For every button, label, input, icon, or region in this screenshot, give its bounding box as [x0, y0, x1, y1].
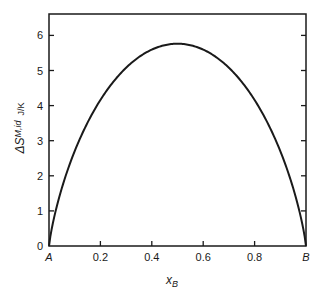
x-axis-ticks: A0.20.40.60.8B: [44, 241, 309, 263]
y-axis-ticks: 0123456: [37, 29, 306, 252]
y-tick-label: 6: [37, 29, 43, 41]
y-tick-label: 0: [37, 240, 43, 252]
y-tick-label: 4: [37, 100, 43, 112]
y-tick-label: 1: [37, 205, 43, 217]
x-axis-label: xB: [165, 273, 178, 289]
plot-frame: [49, 14, 306, 246]
x-tick-label: 0.6: [196, 251, 211, 263]
entropy-curve: [49, 44, 306, 246]
x-tick-label: 0.2: [93, 251, 108, 263]
entropy-of-mixing-chart: 0123456 A0.20.40.60.8B xB ΔSM,idJ/K: [0, 0, 322, 304]
y-tick-label: 2: [37, 170, 43, 182]
y-axis-label: ΔSM,idJ/K: [13, 102, 27, 154]
x-tick-label: A: [44, 251, 52, 263]
x-tick-label: 0.4: [144, 251, 159, 263]
x-tick-label: 0.8: [247, 251, 262, 263]
y-tick-label: 3: [37, 135, 43, 147]
y-tick-label: 5: [37, 65, 43, 77]
x-tick-label: B: [302, 251, 309, 263]
